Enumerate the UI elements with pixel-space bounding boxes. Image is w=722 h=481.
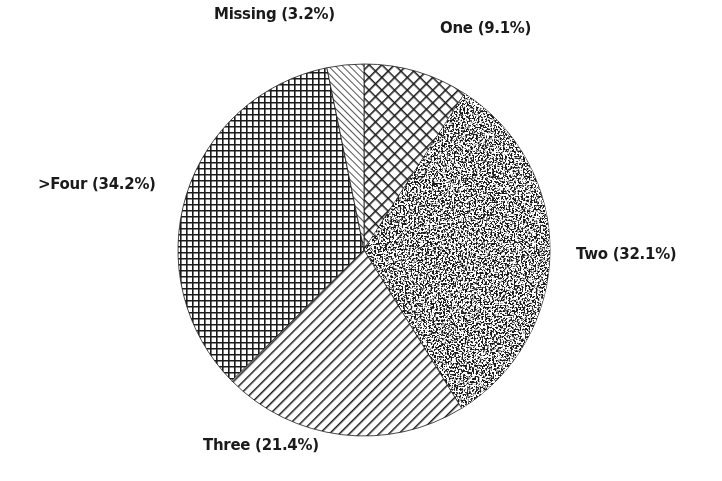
label-missing: Missing (3.2%) [214, 5, 335, 24]
label-one: One (9.1%) [440, 19, 531, 38]
label-three: Three (21.4%) [203, 436, 319, 455]
pie-slices [178, 64, 550, 436]
pie-chart [0, 0, 722, 481]
label-four: >Four (34.2%) [38, 175, 156, 194]
label-two: Two (32.1%) [576, 245, 676, 264]
